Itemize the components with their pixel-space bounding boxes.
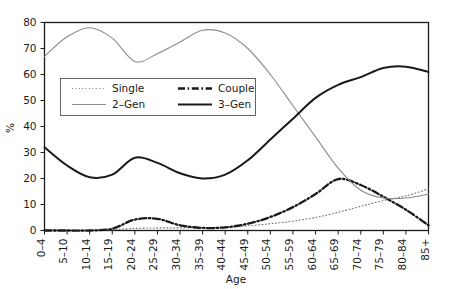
chart-legend: SingleCouple2–Gen3–Gen (61, 79, 256, 116)
legend-label-couple: Couple (218, 82, 254, 94)
x-tick-label: 30–34 (170, 238, 182, 270)
x-tick-label: 25–29 (147, 239, 159, 271)
y-tick-label: 10 (23, 198, 36, 210)
x-tick-label: 5–10 (57, 239, 69, 264)
y-tick-label: 80 (23, 16, 36, 28)
y-tick-label: 0 (30, 224, 37, 236)
x-tick-label: 35–39 (193, 239, 205, 271)
legend-label-single: Single (112, 82, 144, 94)
x-tick-label: 10–14 (80, 238, 92, 270)
legend-label-3-gen: 3–Gen (218, 98, 251, 110)
x-tick-label: 20–24 (125, 238, 137, 270)
x-axis-title: Age (226, 273, 246, 285)
x-tick-label: 80–84 (396, 238, 408, 270)
legend-label-2-gen: 2–Gen (112, 98, 145, 110)
y-axis-title: % (4, 123, 16, 133)
x-tick-label: 40–44 (215, 238, 227, 270)
x-tick-label: 45–49 (238, 239, 250, 271)
x-tick-label: 85+ (419, 239, 431, 261)
x-tick-label: 60–64 (306, 238, 318, 270)
y-tick-label: 60 (23, 68, 36, 80)
x-tick-label: 50–54 (260, 238, 272, 270)
x-tick-label: 65–69 (328, 239, 340, 271)
x-tick-label: 15–19 (102, 239, 114, 271)
y-tick-label: 40 (23, 120, 36, 132)
y-tick-label: 70 (23, 42, 36, 54)
x-tick-label: 75–79 (373, 239, 385, 271)
line-chart: 01020304050607080 0–45–1010–1415–1920–24… (0, 0, 450, 289)
y-tick-label: 20 (23, 172, 36, 184)
y-tick-label: 30 (23, 146, 36, 158)
x-tick-label: 55–59 (283, 239, 295, 271)
x-tick-label: 0–4 (35, 238, 47, 257)
y-tick-label: 50 (23, 94, 36, 106)
x-tick-label: 70–74 (351, 238, 363, 270)
chart-canvas: 01020304050607080 0–45–1010–1415–1920–24… (0, 0, 450, 289)
